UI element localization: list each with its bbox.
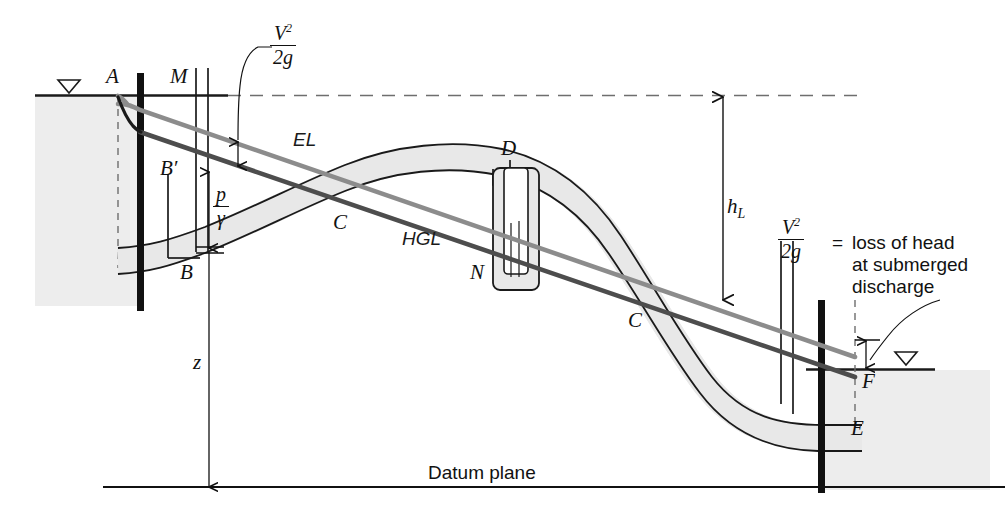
- discharge-note-equals: =: [832, 232, 843, 254]
- velocity-head-leader: [238, 47, 272, 140]
- label-point-b-prime: B′: [160, 158, 177, 179]
- water-surface-triangle-icon-right: [895, 352, 917, 365]
- discharge-note-line2: at submerged: [852, 254, 968, 276]
- label-energy-line: EL: [293, 130, 316, 149]
- label-point-c-left: C: [333, 212, 347, 233]
- label-point-m: M: [170, 66, 188, 87]
- discharge-note-line1: loss of head: [852, 232, 954, 254]
- label-datum-plane: Datum plane: [428, 462, 536, 484]
- figure-canvas: A M B′ B C D N C F E EL HGL hL z V2 2g p…: [0, 0, 1005, 512]
- discharge-note-leader: [870, 300, 940, 360]
- label-point-a: A: [106, 66, 119, 87]
- label-elevation-z: z: [193, 352, 201, 373]
- pipe-band-fill-2: [118, 157, 862, 438]
- velocity-head-fraction-top: V2 2g: [270, 22, 296, 68]
- velocity-head-denominator-top: 2g: [270, 45, 296, 68]
- pipe-outline-top: [118, 144, 862, 425]
- label-hydraulic-grade-line: HGL: [402, 229, 441, 248]
- left-reservoir-water: [35, 96, 141, 306]
- label-head-loss: hL: [727, 196, 745, 221]
- pressure-head-denominator: γ: [213, 206, 229, 229]
- discharge-note-line3: discharge: [852, 276, 934, 298]
- velocity-head-denominator-discharge: 2g: [778, 239, 804, 262]
- pipe-band-fill: [118, 157, 862, 438]
- pressure-head-numerator: p: [213, 184, 229, 206]
- label-point-n: N: [470, 262, 484, 283]
- label-point-b: B: [180, 262, 193, 283]
- velocity-head-numerator-top: V2: [270, 22, 296, 45]
- label-point-e: E: [851, 418, 864, 439]
- label-head-loss-h: h: [727, 194, 738, 218]
- right-reservoir-wall: [818, 300, 825, 493]
- label-point-c-right: C: [628, 310, 642, 331]
- label-point-d: D: [501, 138, 516, 159]
- velocity-head-fraction-discharge: V2 2g: [778, 216, 804, 262]
- label-head-loss-subscript: L: [738, 206, 746, 221]
- velocity-head-numerator-discharge: V2: [778, 216, 804, 239]
- water-surface-triangle-icon-left: [58, 80, 80, 93]
- pressure-head-fraction: p γ: [213, 184, 229, 229]
- label-point-f: F: [862, 371, 875, 392]
